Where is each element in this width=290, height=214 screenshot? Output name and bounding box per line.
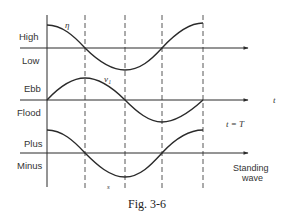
time-markers bbox=[85, 15, 203, 189]
ebb-label: Ebb bbox=[24, 83, 41, 94]
period-annotation: t = T bbox=[226, 119, 245, 129]
standing-wave-label-line1: Standing bbox=[233, 163, 269, 173]
time-axis-symbol: t bbox=[273, 95, 276, 105]
plus-label: Plus bbox=[24, 138, 43, 149]
slope-panel: s Plus Minus bbox=[17, 130, 248, 191]
low-label: Low bbox=[22, 55, 40, 66]
slope-symbol: s bbox=[107, 183, 110, 191]
elevation-curve bbox=[47, 23, 203, 70]
elevation-symbol: η bbox=[65, 20, 70, 30]
minus-label: Minus bbox=[17, 160, 43, 171]
standing-wave-label-line2: wave bbox=[241, 173, 263, 183]
figure-caption: Fig. 3-6 bbox=[128, 197, 166, 211]
high-label: High bbox=[19, 31, 39, 42]
elevation-panel: η High Low bbox=[19, 20, 248, 70]
standing-wave-figure: η High Low t v₁ Ebb Flood s Plus Minus t… bbox=[0, 0, 290, 214]
current-panel: t v₁ Ebb Flood bbox=[17, 74, 276, 122]
flood-label: Flood bbox=[17, 107, 41, 118]
current-symbol: v₁ bbox=[104, 74, 111, 84]
